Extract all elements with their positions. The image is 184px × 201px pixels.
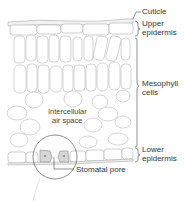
lower-epidermis-brace — [135, 148, 140, 162]
palisade-mesophyll-cells-row-2 — [14, 62, 131, 93]
label-mesophyll-line1: Mesophyll — [142, 79, 178, 88]
label-mesophyll-line2: cells — [142, 88, 158, 97]
label-upper-epidermis-line2: epidermis — [142, 28, 177, 37]
label-cuticle: Cuticle — [142, 7, 167, 16]
label-intercellular-line1: Intercellular — [48, 107, 87, 116]
upper-epidermis-brace — [135, 21, 140, 36]
guard-cells — [40, 150, 69, 162]
mesophyll-brace — [135, 38, 139, 147]
label-lower-epidermis-line2: epidermis — [142, 154, 177, 163]
cuticle-leader — [133, 12, 141, 19]
leaf-cross-section-diagram: Cuticle Upper epidermis Mesophyll cells … — [0, 0, 184, 201]
upper-epidermis-cells — [10, 23, 133, 35]
label-upper-epidermis-line1: Upper — [142, 19, 164, 28]
label-intercellular-line2: air space — [52, 116, 82, 125]
palisade-mesophyll-cells — [14, 35, 130, 63]
leader-tail — [33, 178, 40, 201]
label-lower-epidermis-line1: Lower — [142, 145, 164, 154]
label-stomatal-pore: Stomatal pore — [76, 165, 126, 174]
